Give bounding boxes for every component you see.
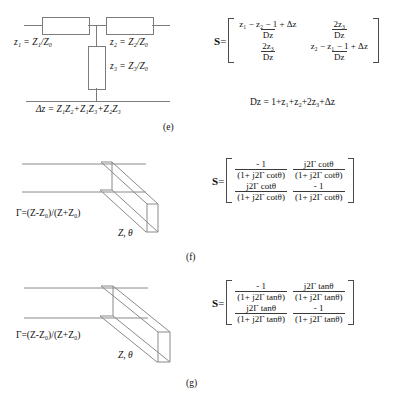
shorted-stub-drawing bbox=[0, 146, 200, 266]
matrix-cell-s21: 2z₃ Dz bbox=[260, 41, 276, 63]
lead-right bbox=[152, 25, 170, 26]
shunt-lead-bottom bbox=[96, 88, 97, 101]
shunt-element-z3 bbox=[88, 46, 106, 90]
caption-e: (e) bbox=[163, 122, 174, 132]
matrix-cell-s12: j2Γ tanθ (1+ j2Γ tanθ) bbox=[293, 281, 345, 303]
matrix-e: S= z₁ − z₂ − 1 + Δz Dz 2z₃ Dz 2z₃ Dz bbox=[214, 18, 379, 63]
caption-f: (f) bbox=[186, 252, 196, 262]
matrix-cell-s21: j2Γ tanθ (1+ j2Γ tanθ) bbox=[235, 303, 287, 325]
label-stub-f: Z, θ bbox=[118, 229, 133, 239]
matrix-cell-s11: - 1 (1+ j2Γ cotθ) bbox=[235, 159, 287, 181]
matrix-bracket: - 1 (1+ j2Γ tanθ) j2Γ tanθ (1+ j2Γ tanθ)… bbox=[226, 280, 353, 325]
shunt-lead-top bbox=[96, 25, 97, 46]
label-z3: z₃ = Z₃/Z₀ bbox=[110, 62, 148, 72]
matrix-label-s: S= bbox=[214, 35, 226, 47]
matrix-cell-s11: - 1 (1+ j2Γ tanθ) bbox=[235, 281, 287, 303]
figure-page: z₁ = Z₁/Z₀ z₂ = Z₂/Z₀ z₃ = Z₃/Z₀ Δz = Z₁… bbox=[0, 0, 401, 407]
matrix-f: S= - 1 (1+ j2Γ cotθ) j2Γ cotθ (1+ j2Γ co… bbox=[212, 158, 354, 203]
matrix-cell-s22: - 1 (1+ j2Γ tanθ) bbox=[293, 303, 345, 325]
denominator-note-e: Dz = 1+z₁+z₂+2z₃+Δz bbox=[250, 97, 335, 107]
caption-g: (g) bbox=[186, 378, 197, 388]
label-gamma-f: Γ=(Z-Z₀)/(Z+Z₀) bbox=[16, 209, 81, 219]
matrix-cell-s12: j2Γ cotθ (1+ j2Γ cotθ) bbox=[293, 159, 345, 181]
matrix-bracket: - 1 (1+ j2Γ cotθ) j2Γ cotθ (1+ j2Γ cotθ)… bbox=[226, 158, 353, 203]
lead-mid bbox=[88, 25, 106, 26]
ground-rail bbox=[26, 101, 170, 102]
matrix-cell-s21: j2Γ cotθ (1+ j2Γ cotθ) bbox=[235, 181, 287, 203]
label-stub-g: Z, θ bbox=[118, 351, 133, 361]
label-z1: z₁ = Z₁/Z₀ bbox=[14, 38, 52, 48]
matrix-cell-s22: z₂ − z₁ − 1 + Δz Dz bbox=[309, 41, 370, 63]
label-gamma-g: Γ=(Z-Z₀)/(Z+Z₀) bbox=[16, 331, 81, 341]
series-element-z2 bbox=[106, 17, 154, 35]
matrix-cell-s11: z₁ − z₂ − 1 + Δz Dz bbox=[237, 19, 298, 41]
matrix-cell-s22: - 1 (1+ j2Γ cotθ) bbox=[293, 181, 345, 203]
matrix-cell-s12: 2z₃ Dz bbox=[331, 19, 347, 41]
series-element-z1 bbox=[42, 17, 90, 35]
matrix-bracket: z₁ − z₂ − 1 + Δz Dz 2z₃ Dz 2z₃ Dz z₂ − z… bbox=[228, 18, 379, 63]
matrix-label-s: S= bbox=[212, 297, 224, 309]
label-z2: z₂ = Z₂/Z₀ bbox=[110, 38, 148, 48]
stub-face-upper bbox=[101, 162, 158, 204]
matrix-g: S= - 1 (1+ j2Γ tanθ) j2Γ tanθ (1+ j2Γ ta… bbox=[212, 280, 354, 325]
label-delta-z: Δz = Z₁Z₂+Z₁Z₃+Z₂Z₃ bbox=[36, 105, 121, 115]
matrix-label-s: S= bbox=[212, 175, 224, 187]
lead-left bbox=[24, 25, 42, 26]
